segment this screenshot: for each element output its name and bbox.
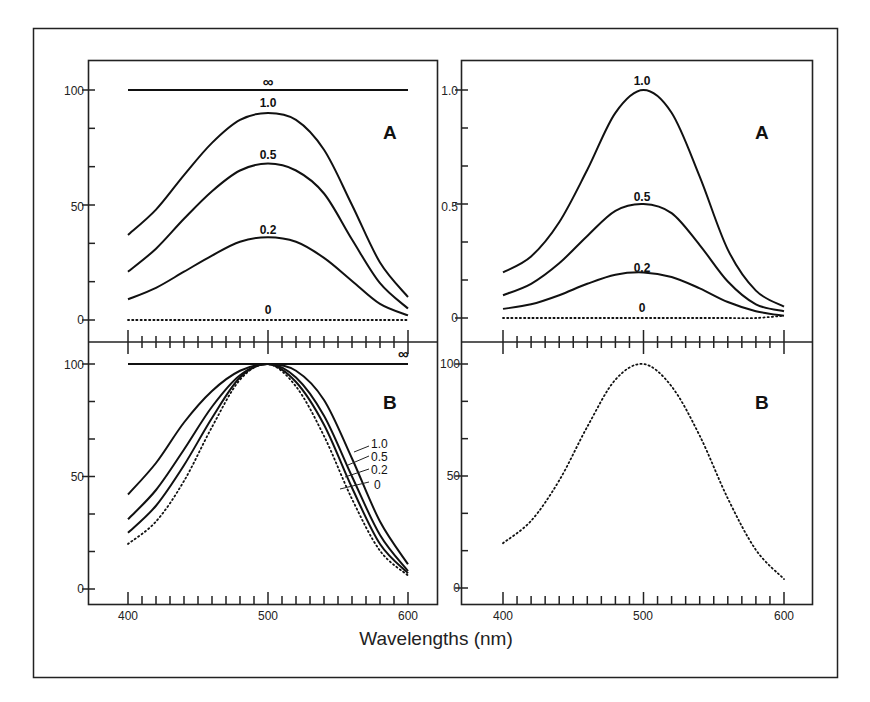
curve-0.2: [128, 364, 408, 573]
tl-ytick-0: 0: [77, 313, 84, 327]
outer-frame: [34, 29, 838, 678]
bl-ytick-50: 50: [71, 470, 85, 484]
tl-label-02: 0.2: [260, 223, 277, 237]
bl-xtick-400: 400: [118, 609, 138, 623]
axis-ticks: [82, 90, 784, 604]
br-ytick-0: 0: [453, 581, 460, 595]
bl-label-02: 0.2: [371, 463, 388, 477]
tl-label-inf: ∞: [263, 73, 274, 90]
br-xtick-500: 500: [633, 609, 653, 623]
curve-0.5: [503, 204, 784, 311]
curve-0: [503, 316, 784, 318]
panel-letter-tl: A: [383, 122, 397, 143]
curve-1.0: [128, 364, 408, 564]
curve-0.5: [128, 364, 408, 571]
tl-label-05: 0.5: [260, 148, 277, 162]
tl-label-1: 1.0: [260, 96, 277, 110]
br-ytick-100: 100: [440, 357, 460, 371]
panel-letter-br: B: [755, 392, 769, 413]
panel-letter-bl: B: [383, 392, 397, 413]
curve-1.0: [128, 113, 408, 297]
data-curves: [128, 90, 784, 579]
tr-label-05: 0.5: [634, 190, 651, 204]
figure-canvas: 100 50 0 1.0 0.5 0 100 50 0 100 50 0 400…: [0, 0, 870, 702]
bl-xtick-500: 500: [258, 609, 278, 623]
bl-ytick-0: 0: [77, 582, 84, 596]
br-xtick-600: 600: [774, 609, 794, 623]
bl-xtick-600: 600: [398, 609, 418, 623]
tr-ytick-1: 1.0: [441, 84, 458, 98]
tr-ytick-05: 0.5: [441, 200, 458, 214]
tr-label-1: 1.0: [634, 74, 651, 88]
tl-ytick-100: 100: [64, 84, 84, 98]
tl-ytick-50: 50: [71, 200, 85, 214]
tr-label-0: 0: [639, 301, 646, 315]
panel-letter-tr: A: [755, 122, 769, 143]
curve-normalized: [503, 364, 784, 579]
br-xtick-400: 400: [493, 609, 513, 623]
bl-label-05: 0.5: [371, 450, 388, 464]
bl-ytick-100: 100: [64, 358, 84, 372]
tr-label-02: 0.2: [634, 261, 651, 275]
tr-ytick-0: 0: [451, 311, 458, 325]
br-ytick-50: 50: [447, 469, 461, 483]
tl-label-0: 0: [265, 303, 272, 317]
bl-label-0: 0: [374, 478, 381, 492]
x-tick-labels: 400 500 600 400 500 600: [118, 609, 794, 623]
bl-label-inf: ∞: [398, 345, 409, 362]
bl-label-1: 1.0: [371, 437, 388, 451]
x-axis-label: Wavelengths (nm): [359, 628, 512, 649]
